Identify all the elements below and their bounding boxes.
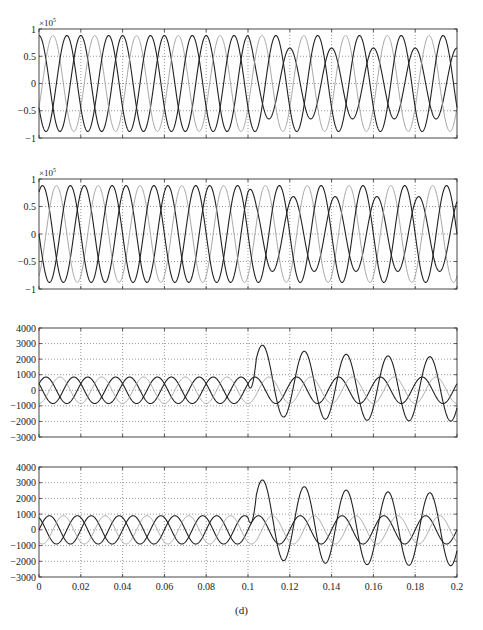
- y-tick-label: 0.5: [24, 51, 37, 62]
- y-tick-label: −1: [25, 133, 36, 144]
- y-tick-label: 4000: [16, 323, 36, 334]
- y-tick-label: −3000: [10, 432, 36, 443]
- y-tick-label: 0: [31, 524, 36, 535]
- waveforms: [39, 480, 457, 566]
- chart-panel-2: −1−0.500.51×105: [18, 167, 457, 295]
- x-tick-label: 0.06: [156, 581, 174, 592]
- figure-caption: (d): [0, 604, 483, 616]
- grid-lines: [39, 328, 457, 437]
- y-tick-label: −2000: [10, 416, 36, 427]
- y-tick-label: 2000: [16, 493, 36, 504]
- y-tick-label: 3000: [16, 338, 36, 349]
- y-tick-label: 2000: [16, 354, 36, 365]
- y-tick-label: 4000: [16, 462, 36, 473]
- y-tick-label: 1: [31, 174, 36, 185]
- y-tick-label: 0.5: [24, 201, 37, 212]
- x-tick-label: 0.2: [451, 581, 464, 592]
- y-tick-label: 0: [31, 229, 36, 240]
- y-tick-label: 0: [31, 78, 36, 89]
- x-tick-label: 0: [37, 581, 42, 592]
- y-tick-label: −0.5: [18, 105, 36, 116]
- x-tick-label: 0.18: [406, 581, 424, 592]
- y-tick-label: 1000: [16, 509, 36, 520]
- chart-panel-1: −1−0.500.51×105: [18, 17, 457, 144]
- y-multiplier-label: ×105: [39, 17, 56, 28]
- y-tick-label: −1000: [10, 400, 36, 411]
- y-tick-label: 1000: [16, 369, 36, 380]
- y-multiplier-label: ×105: [39, 167, 56, 178]
- y-tick-label: −1000: [10, 540, 36, 551]
- y-tick-label: −1: [25, 284, 36, 295]
- figure: −1−0.500.51×105−1−0.500.51×105−3000−2000…: [0, 0, 483, 630]
- x-tick-label: 0.12: [281, 581, 299, 592]
- y-tick-label: −0.5: [18, 256, 36, 267]
- y-tick-label: 3000: [16, 477, 36, 488]
- x-tick-label: 0.08: [197, 581, 215, 592]
- x-tick-label: 0.04: [114, 581, 132, 592]
- x-tick-label: 0.1: [242, 581, 255, 592]
- chart-panel-3: −3000−2000−100001000200030004000: [10, 323, 457, 443]
- x-tick-label: 0.16: [365, 581, 383, 592]
- waveform-2: [39, 377, 457, 403]
- y-tick-label: 1: [31, 24, 36, 35]
- waveform-1: [39, 480, 457, 566]
- x-tick-label: 0.14: [323, 581, 341, 592]
- waveform-3: [39, 377, 457, 403]
- grid-lines: [39, 29, 457, 138]
- waveform-chart-stack: −1−0.500.51×105−1−0.500.51×105−3000−2000…: [0, 0, 483, 630]
- y-tick-label: −2000: [10, 556, 36, 567]
- grid-lines: [39, 467, 457, 577]
- y-tick-label: −3000: [10, 572, 36, 583]
- x-tick-label: 0.02: [72, 581, 90, 592]
- y-tick-label: 0: [31, 385, 36, 396]
- chart-panel-4: −3000−2000−10000100020003000400000.020.0…: [10, 462, 463, 593]
